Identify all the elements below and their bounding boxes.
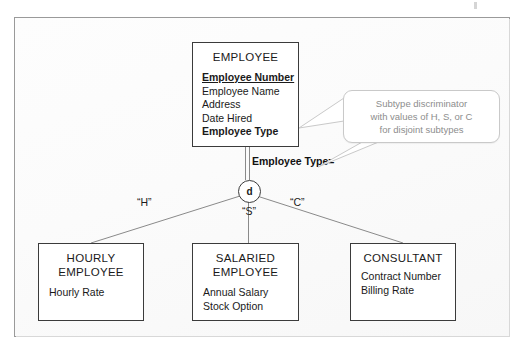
diagram-artboard: EMPLOYEE Employee Number Employee Name A…	[0, 0, 524, 358]
callout-text: Subtype discriminator with values of H, …	[344, 97, 499, 136]
callout-tails	[0, 0, 524, 358]
diagram-canvas: EMPLOYEE Employee Number Employee Name A…	[0, 0, 524, 358]
callout-subtype-discriminator: Subtype discriminator with values of H, …	[343, 90, 500, 143]
